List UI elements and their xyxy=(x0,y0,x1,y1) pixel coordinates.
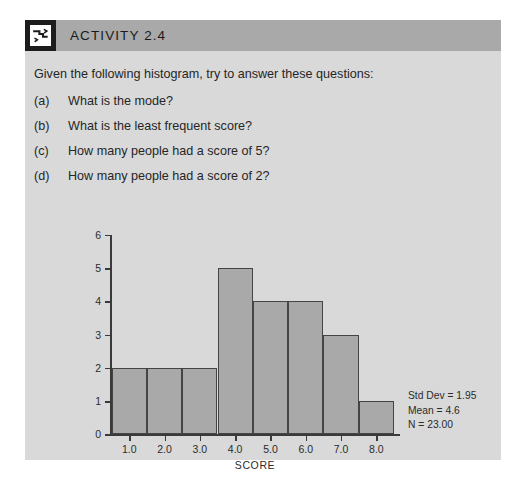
y-tick-5 xyxy=(105,268,110,269)
x-axis-line xyxy=(110,434,400,436)
histogram-bar xyxy=(147,368,182,434)
x-tick-label-5.0: 5.0 xyxy=(263,444,278,455)
question-item-b: (b)What is the least frequent score? xyxy=(34,119,252,133)
histogram-figure: 0123456 1.02.03.04.05.06.07.08.0 SCORE S… xyxy=(25,211,501,476)
y-tick-0 xyxy=(105,434,110,435)
y-tick-2 xyxy=(105,368,110,369)
y-tick-label-6: 6 xyxy=(95,230,101,241)
question-label-d: (d) xyxy=(34,169,68,183)
y-tick-label-1: 1 xyxy=(95,396,101,407)
zigzag-glyph xyxy=(32,27,49,44)
x-tick-1.0 xyxy=(129,436,130,441)
question-text-d: How many people had a score of 2? xyxy=(68,169,270,183)
histogram-bar xyxy=(182,368,217,434)
x-tick-label-3.0: 3.0 xyxy=(193,444,208,455)
y-tick-label-2: 2 xyxy=(95,363,101,374)
activity-header: ACTIVITY 2.4 xyxy=(25,20,501,51)
y-tick-label-4: 4 xyxy=(95,296,101,307)
histogram-bar xyxy=(112,368,147,434)
y-tick-6 xyxy=(105,235,110,236)
y-tick-3 xyxy=(105,335,110,336)
question-label-c: (c) xyxy=(34,144,68,158)
histogram-bar xyxy=(253,301,288,434)
x-tick-6.0 xyxy=(306,436,307,441)
intro-text: Given the following histogram, try to an… xyxy=(34,67,374,81)
activity-zigzag-icon xyxy=(25,20,56,51)
x-tick-label-4.0: 4.0 xyxy=(228,444,243,455)
x-tick-8.0 xyxy=(376,436,377,441)
x-tick-3.0 xyxy=(200,436,201,441)
x-tick-label-6.0: 6.0 xyxy=(298,444,313,455)
y-tick-label-5: 5 xyxy=(95,263,101,274)
question-text-a: What is the mode? xyxy=(68,94,173,108)
stat-mean: Mean = 4.6 xyxy=(408,404,476,419)
x-tick-label-1.0: 1.0 xyxy=(122,444,137,455)
question-item-a: (a)What is the mode? xyxy=(34,94,173,108)
statistics-annotation: Std Dev = 1.95 Mean = 4.6 N = 23.00 xyxy=(408,389,476,433)
x-tick-4.0 xyxy=(235,436,236,441)
histogram-bar xyxy=(323,335,358,435)
y-tick-label-0: 0 xyxy=(95,429,101,440)
x-tick-label-2.0: 2.0 xyxy=(157,444,172,455)
stat-n: N = 23.00 xyxy=(408,418,476,433)
x-tick-label-7.0: 7.0 xyxy=(334,444,349,455)
x-tick-5.0 xyxy=(270,436,271,441)
question-text-c: How many people had a score of 5? xyxy=(68,144,270,158)
y-tick-1 xyxy=(105,401,110,402)
question-label-b: (b) xyxy=(34,119,68,133)
histogram-plot-area: 0123456 1.02.03.04.05.06.07.08.0 xyxy=(110,235,400,436)
x-tick-2.0 xyxy=(165,436,166,441)
y-tick-4 xyxy=(105,301,110,302)
activity-icon-inner-box xyxy=(30,25,51,46)
x-tick-label-8.0: 8.0 xyxy=(369,444,384,455)
question-item-c: (c)How many people had a score of 5? xyxy=(34,144,270,158)
histogram-bar xyxy=(218,268,253,434)
activity-title: ACTIVITY 2.4 xyxy=(70,28,166,43)
stat-std-dev: Std Dev = 1.95 xyxy=(408,389,476,404)
x-tick-7.0 xyxy=(341,436,342,441)
question-label-a: (a) xyxy=(34,94,68,108)
histogram-bar xyxy=(288,301,323,434)
question-text-b: What is the least frequent score? xyxy=(68,119,252,133)
activity-card: ACTIVITY 2.4 Given the following histogr… xyxy=(25,20,501,460)
x-axis-title: SCORE xyxy=(110,459,400,471)
histogram-bar xyxy=(359,401,394,434)
question-item-d: (d)How many people had a score of 2? xyxy=(34,169,270,183)
y-tick-label-3: 3 xyxy=(95,329,101,340)
